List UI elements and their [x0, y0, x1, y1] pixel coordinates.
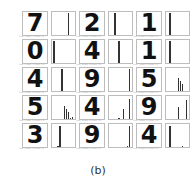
class-histogram	[51, 11, 76, 36]
class-histogram	[108, 123, 133, 148]
panel-caption: true: 1 pred: 1 score: 0.9	[133, 35, 191, 37]
digit-image: 4	[22, 67, 48, 92]
digit-image: 5	[136, 67, 162, 92]
class-histogram	[165, 11, 190, 36]
digit-glyph: 4	[80, 39, 104, 64]
figure-caption: (b)	[0, 164, 196, 177]
panel: 9true: 9 pred: 9 score: 0.9	[79, 67, 133, 95]
class-histogram	[165, 39, 190, 64]
panel-caption: true: 7 pred: 7 score: 0.9	[19, 35, 77, 37]
class-histogram	[51, 67, 76, 92]
histogram-bar	[129, 69, 131, 91]
panel-caption: true: 3 pred: 3 score: 0.9	[19, 147, 77, 149]
class-histogram	[165, 95, 190, 120]
panel: 4true: 4 pred: 9 score: 0.9	[79, 95, 133, 123]
digit-image: 9	[79, 123, 105, 148]
panel: 9true: 9 pred: 9 score: 0.9	[79, 123, 133, 151]
digit-glyph: 4	[23, 67, 47, 92]
histogram-bar	[178, 107, 180, 119]
digit-image: 5	[22, 95, 48, 120]
digit-image: 1	[136, 39, 162, 64]
class-histogram	[51, 39, 76, 64]
panel: 9true: 9 pred: 9 score: 0.8	[136, 95, 190, 123]
digit-image: 4	[79, 39, 105, 64]
digit-glyph: 9	[137, 95, 161, 120]
class-histogram	[108, 67, 133, 92]
digit-image: 9	[79, 67, 105, 92]
panel-caption: true: 4 pred: 1 score: 0.9	[133, 147, 191, 149]
digit-glyph: 3	[23, 123, 47, 148]
histogram-bar	[53, 41, 55, 63]
digit-glyph: 5	[23, 95, 47, 120]
histogram-bar	[118, 41, 120, 63]
class-histogram	[108, 95, 133, 120]
digit-image: 9	[136, 95, 162, 120]
panel: 0true: 0 pred: 0 score: 0.9	[22, 39, 76, 67]
panel: 4true: 4 pred: 4 score: 0.9	[79, 39, 133, 67]
panel: 2true: 2 pred: 2 score: 0.9	[79, 11, 133, 39]
class-histogram	[51, 95, 76, 120]
grid-row: 5true: 5 pred: 5 score: 0.64true: 4 pred…	[22, 95, 192, 123]
panel-caption: true: 4 pred: 4 score: 0.9	[76, 63, 134, 65]
panel-caption: true: 9 pred: 9 score: 0.9	[76, 91, 134, 93]
histogram-bar	[169, 126, 171, 147]
panel: 1true: 1 pred: 1 score: 0.9	[136, 39, 190, 67]
grid-row: 7true: 7 pred: 7 score: 0.92true: 2 pred…	[22, 11, 192, 39]
digit-glyph: 9	[80, 123, 104, 148]
class-histogram	[165, 123, 190, 148]
digit-image: 2	[79, 11, 105, 36]
class-histogram	[108, 11, 133, 36]
panel-caption: true: 4 pred: 9 score: 0.9	[76, 119, 134, 121]
digit-glyph: 9	[80, 67, 104, 92]
panel-caption: true: 4 pred: 4 score: 0.9	[19, 91, 77, 93]
histogram-bar	[68, 13, 70, 35]
panel: 5true: 5 pred: 5 score: 0.6	[136, 67, 190, 95]
histogram-bar	[129, 99, 131, 119]
histogram-bar	[123, 109, 125, 119]
panel: 5true: 5 pred: 5 score: 0.6	[22, 95, 76, 123]
digit-image: 4	[136, 123, 162, 148]
panel-caption: true: 9 pred: 9 score: 0.9	[76, 147, 134, 149]
histogram-bar	[169, 13, 171, 35]
digit-glyph: 1	[137, 11, 161, 36]
histogram-bar	[114, 13, 116, 35]
class-histogram	[108, 39, 133, 64]
digit-image: 4	[79, 95, 105, 120]
panel-caption: true: 2 pred: 2 score: 0.9	[76, 35, 134, 37]
panel: 1true: 1 pred: 1 score: 0.9	[136, 11, 190, 39]
histogram-bar	[169, 41, 171, 63]
digit-glyph: 0	[23, 39, 47, 64]
digit-glyph: 4	[80, 95, 104, 120]
grid-row: 3true: 3 pred: 3 score: 0.99true: 9 pred…	[22, 123, 192, 151]
histogram-bar	[59, 126, 61, 147]
histogram-bar	[182, 84, 184, 91]
grid-row: 0true: 0 pred: 0 score: 0.94true: 4 pred…	[22, 39, 192, 67]
panel-caption: true: 5 pred: 5 score: 0.6	[133, 91, 191, 93]
panel: 4true: 4 pred: 4 score: 0.9	[22, 67, 76, 95]
histogram-bar	[129, 126, 131, 147]
digit-image: 7	[22, 11, 48, 36]
panel: 3true: 3 pred: 3 score: 0.9	[22, 123, 76, 151]
panel-caption: true: 1 pred: 1 score: 0.9	[133, 63, 191, 65]
panel: 4true: 4 pred: 1 score: 0.9	[136, 123, 190, 151]
digit-glyph: 1	[137, 39, 161, 64]
digit-glyph: 7	[23, 11, 47, 36]
digit-glyph: 4	[137, 123, 161, 148]
panel-caption: true: 0 pred: 0 score: 0.9	[19, 63, 77, 65]
histogram-bar	[61, 69, 63, 91]
histogram-bar	[186, 100, 188, 119]
class-histogram	[51, 123, 76, 148]
class-histogram	[165, 67, 190, 92]
grid-row: 4true: 4 pred: 4 score: 0.99true: 9 pred…	[22, 67, 192, 95]
digit-image: 0	[22, 39, 48, 64]
digit-image: 3	[22, 123, 48, 148]
panel: 7true: 7 pred: 7 score: 0.9	[22, 11, 76, 39]
digit-glyph: 2	[80, 11, 104, 36]
panel-caption: true: 5 pred: 5 score: 0.6	[19, 119, 77, 121]
digit-glyph: 5	[137, 67, 161, 92]
digit-image: 1	[136, 11, 162, 36]
panel-caption: true: 9 pred: 9 score: 0.8	[133, 119, 191, 121]
